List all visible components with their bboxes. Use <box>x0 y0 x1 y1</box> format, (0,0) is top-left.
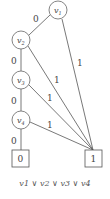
svg-text:1: 1 <box>91 154 97 164</box>
node-v4: v4 <box>12 111 30 129</box>
node-v1: v1 <box>49 1 67 19</box>
bdd-diagram: 0 1 0 1 0 1 0 1 v1 v2 v3 v4 0 1 v1 ∨ v2 … <box>0 0 110 199</box>
edge-label-v3-t1: 1 <box>47 93 53 103</box>
node-v3: v3 <box>12 71 30 89</box>
edge-label-v2-t1: 1 <box>54 75 60 85</box>
edge-v4-t1 <box>30 122 93 150</box>
edge-label-v4-t0: 0 <box>11 136 17 146</box>
terminal-0: 0 <box>12 150 29 167</box>
terminal-1: 1 <box>85 150 102 167</box>
edge-label-v4-t1: 1 <box>47 120 53 130</box>
edge-v1-t1 <box>62 19 93 150</box>
diagram-caption: v1 ∨ v2 ∨ v3 ∨ v4 <box>19 179 90 188</box>
edge-label-v2-v3: 0 <box>11 56 17 66</box>
edge-label-v1-v2: 0 <box>33 14 39 24</box>
edge-v3-t1 <box>29 85 93 150</box>
edge-v2-t1 <box>28 46 93 150</box>
svg-text:0: 0 <box>18 154 24 164</box>
node-v2: v2 <box>12 31 30 49</box>
edge-label-v1-t1: 1 <box>77 58 83 68</box>
edge-label-v3-v4: 0 <box>11 96 17 106</box>
